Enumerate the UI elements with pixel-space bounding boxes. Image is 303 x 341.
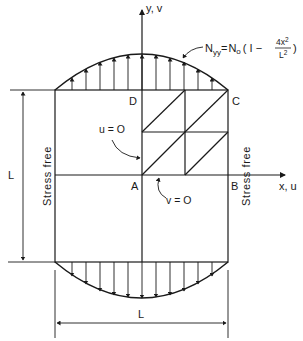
- bottom-load-arrows: [72, 262, 212, 298]
- v-zero-label: v = O: [166, 194, 191, 206]
- horizontal-dimension-label: L: [138, 308, 144, 320]
- svg-text:L2: L2: [279, 49, 288, 60]
- plate-diagram: y, v x, u D C A B u = O v = O Stress fre…: [0, 0, 303, 341]
- corner-label-a: A: [131, 180, 139, 192]
- y-axis-label: y, v: [146, 2, 163, 14]
- load-equation: Nyy=No( I − 4x2 L2 ): [205, 36, 297, 60]
- top-load-arrows: [72, 55, 212, 90]
- left-edge-label: Stress free: [41, 146, 53, 206]
- svg-text:4x2: 4x2: [276, 36, 289, 47]
- v-zero-leader: [158, 178, 166, 198]
- bottom-load-curve: [55, 262, 228, 298]
- right-edge-label: Stress free: [240, 146, 252, 206]
- x-axis-label: x, u: [279, 180, 297, 192]
- corner-label-c: C: [232, 95, 240, 107]
- u-zero-label: u = O: [99, 123, 125, 135]
- svg-text:Nyy=No( I −: Nyy=No( I −: [205, 42, 262, 57]
- corner-label-b: B: [231, 180, 238, 192]
- vertical-dimension-label: L: [8, 169, 14, 181]
- equation-leader: [183, 47, 203, 58]
- svg-text:): ): [293, 42, 297, 54]
- finite-element-mesh: [142, 90, 228, 175]
- u-zero-leader: [112, 140, 140, 158]
- corner-label-d: D: [129, 95, 137, 107]
